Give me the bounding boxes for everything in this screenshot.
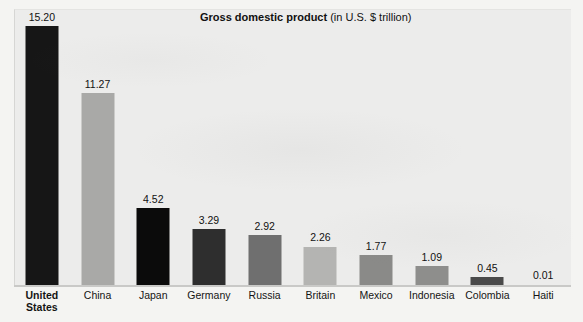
bar-rect: [137, 208, 170, 285]
bar-4: [181, 8, 237, 285]
bar-value-label: 0.45: [477, 263, 497, 274]
bar-rect: [81, 93, 114, 285]
bar-5: [237, 8, 293, 285]
category-label-10: Haiti: [508, 290, 578, 302]
bar-rect: [471, 277, 504, 285]
bar-rect: [304, 247, 337, 286]
bar-10: [515, 8, 571, 285]
bar-8: [404, 8, 460, 285]
bar-value-label: 0.01: [533, 270, 553, 281]
bar-value-label: 1.09: [422, 252, 442, 263]
bar-value-label: 15.20: [29, 12, 55, 23]
bar-rect: [415, 266, 448, 285]
x-axis-line: [14, 285, 571, 287]
bar-value-label: 1.77: [366, 241, 386, 252]
bar-2: [70, 8, 126, 285]
bar-rect: [25, 26, 58, 285]
bar-9: [459, 8, 515, 285]
bar-1: [14, 8, 70, 285]
bar-rect: [248, 235, 281, 285]
bar-3: [125, 8, 181, 285]
bar-value-label: 11.27: [85, 79, 111, 90]
bar-rect: [192, 229, 225, 285]
bar-rect: [360, 255, 393, 285]
gdp-bar-chart-figure: Gross domestic product (in U.S. $ trilli…: [0, 0, 583, 322]
bar-value-label: 4.52: [143, 194, 163, 205]
bar-value-label: 3.29: [199, 215, 219, 226]
bar-value-label: 2.92: [254, 221, 274, 232]
bar-value-label: 2.26: [310, 232, 330, 243]
